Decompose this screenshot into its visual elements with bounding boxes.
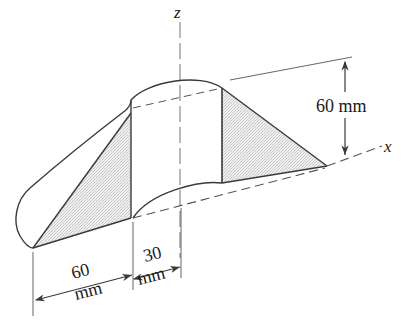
isometric-drawing-svg: 60 mm x z 60 mm 30 mm [0,0,408,328]
hidden-top-edge [133,88,222,108]
cylinder-bottom-arc [133,183,222,218]
cylinder-radius-unit-label: mm [135,263,167,289]
z-axis-label: z [173,3,181,22]
cone-cylinder-fillet [126,100,131,110]
cone-length-value-label: 60 [69,259,91,283]
cylinder-top-arc [131,80,222,100]
x-axis-label: x [383,137,392,156]
height-upper-extension-line [230,57,352,80]
cylinder-radius-dimension: 30 mm [134,242,180,289]
cone-rounded-nose [16,188,33,248]
central-half-cylinder [131,80,222,218]
figure-container: 60 mm x z 60 mm 30 mm [0,0,408,328]
cone-length-dimension: 60 mm [36,259,132,304]
x-axis-line [327,146,382,166]
height-dimension: 60 mm [316,62,367,155]
height-dim-label: 60 mm [316,96,367,116]
